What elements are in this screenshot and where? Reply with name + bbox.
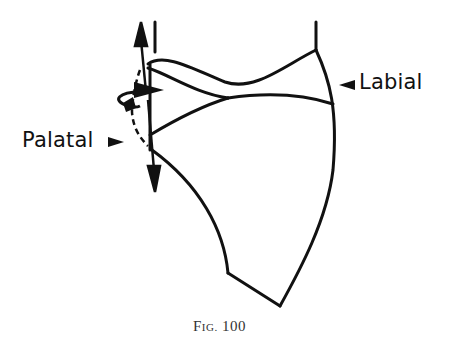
lower-diagonal <box>150 98 228 135</box>
second-curve <box>148 68 228 98</box>
figure-caption: FIG. 100 <box>193 318 246 335</box>
labial-label: Labial <box>359 70 423 94</box>
palatal-outline <box>152 150 228 273</box>
caption-number: 100 <box>222 318 246 334</box>
tooth-diagram <box>0 0 460 343</box>
palatal-pointer <box>108 137 124 147</box>
caption-prefix: F <box>193 318 202 334</box>
labial-outline <box>280 50 334 306</box>
rotation-arrow <box>119 82 164 112</box>
incisal-edge <box>228 273 280 306</box>
labial-pointer <box>339 80 355 90</box>
band-line <box>228 95 333 104</box>
caption-smallcaps: IG. <box>202 321 218 333</box>
palatal-label: Palatal <box>22 128 94 152</box>
